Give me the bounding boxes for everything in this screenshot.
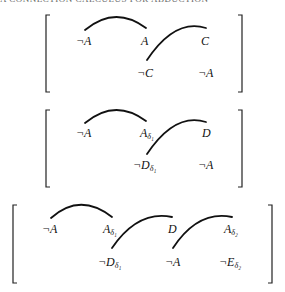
literal: ¬A — [42, 223, 57, 239]
matrix-2-arc-2 — [147, 120, 206, 154]
literal: ¬C — [137, 67, 153, 83]
literal: ¬A — [76, 35, 91, 51]
literal: D — [168, 223, 177, 239]
literal: ¬Eδ₂ — [219, 256, 241, 272]
literal: A — [141, 35, 148, 51]
matrix-1-right-bracket — [238, 15, 242, 92]
literal: ¬Dδ₁ — [98, 256, 121, 272]
literal: D — [202, 127, 211, 143]
matrix-1-arc-1 — [85, 17, 146, 30]
literal: ¬Dδ₁ — [133, 159, 156, 175]
matrix-2-right-bracket — [238, 110, 242, 187]
literal: Aδ₁ — [103, 223, 117, 239]
matrix-1-arc-2 — [147, 26, 206, 60]
literal: Aδ₂ — [224, 223, 238, 239]
literal: ¬A — [198, 67, 213, 83]
matrix-3-arc-1 — [51, 205, 112, 218]
matrix-3-right-bracket — [268, 205, 272, 283]
matrix-2-arc-1 — [85, 110, 146, 123]
brackets — [13, 15, 272, 283]
literal: ¬A — [198, 159, 213, 175]
matrix-2-left-bracket — [46, 110, 50, 187]
matrix-1-left-bracket — [46, 15, 50, 92]
matrix-3-arc-2 — [112, 216, 172, 248]
literal: ¬A — [76, 127, 91, 143]
literal: C — [201, 35, 209, 51]
literal: Aδ₁ — [140, 127, 154, 143]
matrix-3-left-bracket — [13, 205, 17, 283]
literal: ¬A — [165, 256, 180, 272]
